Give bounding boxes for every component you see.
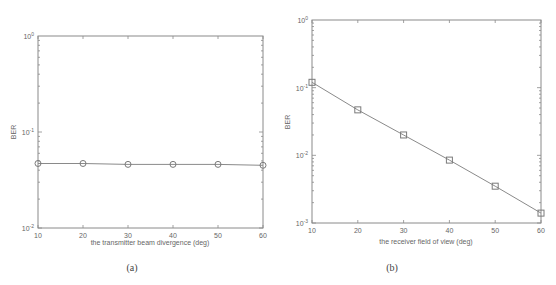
y-axis-b: 10-310-210-1100 bbox=[296, 15, 541, 227]
y-axis-label-b: BER bbox=[284, 115, 291, 129]
x-tick-label: 50 bbox=[491, 227, 499, 234]
x-tick-label: 40 bbox=[169, 232, 177, 239]
x-tick-label: 10 bbox=[308, 227, 316, 234]
x-axis-a: 102030405060 bbox=[34, 36, 267, 239]
figure-canvas: 10-210-1100 102030405060 the transmitter… bbox=[0, 0, 556, 285]
plot-frame-a bbox=[38, 36, 263, 228]
x-tick-label: 20 bbox=[79, 232, 87, 239]
y-tick-label: 10-1 bbox=[296, 83, 308, 92]
y-tick-label: 100 bbox=[23, 31, 34, 40]
data-line-a bbox=[38, 164, 263, 166]
y-tick-label: 10-2 bbox=[296, 150, 308, 159]
x-tick-label: 50 bbox=[214, 232, 222, 239]
x-tick-label: 60 bbox=[537, 227, 545, 234]
x-tick-label: 30 bbox=[400, 227, 408, 234]
y-tick-label: 100 bbox=[297, 15, 308, 24]
y-axis-a: 10-210-1100 bbox=[22, 31, 263, 232]
x-axis-b: 102030405060 bbox=[308, 20, 545, 234]
y-tick-label: 10-1 bbox=[22, 127, 34, 136]
x-axis-label-a: the transmitter beam divergence (deg) bbox=[91, 239, 210, 247]
chart-a: 10-210-1100 102030405060 the transmitter… bbox=[10, 31, 267, 274]
x-tick-label: 60 bbox=[259, 232, 267, 239]
data-line-b bbox=[312, 82, 541, 213]
x-tick-label: 20 bbox=[354, 227, 362, 234]
x-tick-label: 30 bbox=[124, 232, 132, 239]
y-tick-label: 10-2 bbox=[22, 223, 34, 232]
x-tick-label: 40 bbox=[446, 227, 454, 234]
x-axis-label-b: the receiver field of view (deg) bbox=[379, 238, 472, 246]
caption-a: (a) bbox=[126, 262, 137, 274]
chart-b: 10-310-210-1100 102030405060 the receive… bbox=[284, 15, 545, 274]
x-tick-label: 10 bbox=[34, 232, 42, 239]
y-tick-label: 10-3 bbox=[296, 218, 308, 227]
caption-b: (b) bbox=[386, 262, 398, 274]
y-axis-label-a: BER bbox=[10, 125, 17, 139]
